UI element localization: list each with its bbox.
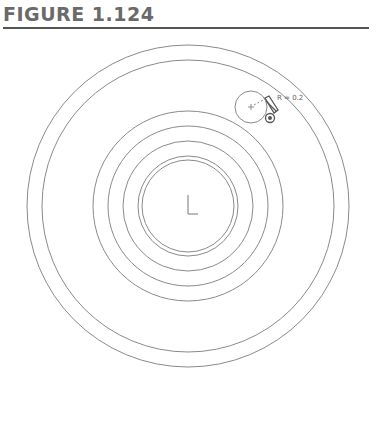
origin-axis-icon bbox=[188, 195, 198, 214]
concentric-rings-drawing: R = 0.2 bbox=[0, 0, 379, 421]
small-circle bbox=[235, 91, 267, 123]
radius-label: R = 0.2 bbox=[277, 94, 303, 102]
